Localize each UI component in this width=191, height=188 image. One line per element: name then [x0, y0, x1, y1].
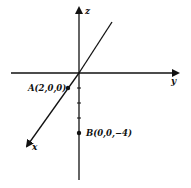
coordinate-diagram: z y x A(2,0,0) B(0,0,−4) [0, 0, 191, 188]
point-b-marker [77, 131, 81, 135]
y-axis-label: y [170, 76, 177, 86]
point-a-label: A(2,0,0) [27, 83, 66, 94]
x-axis-label: x [31, 142, 38, 152]
x-axis-back [79, 22, 112, 73]
point-b-label: B(0,0,−4) [85, 128, 132, 139]
point-a-marker [66, 86, 70, 90]
z-axis-label: z [84, 6, 91, 16]
